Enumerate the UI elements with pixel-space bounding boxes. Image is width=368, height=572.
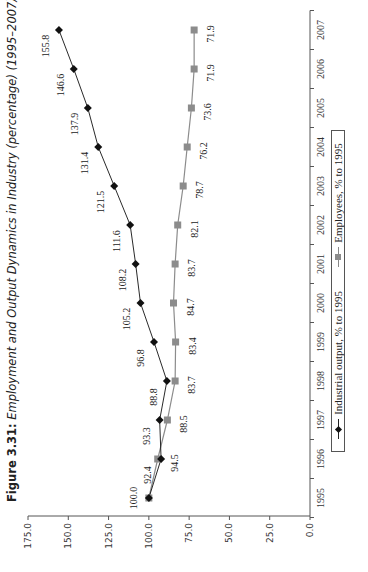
employees-data-label: 71.9 [205,64,216,82]
x-tick-label: 2006 [315,59,326,79]
y-tick-label: 100.0 [144,523,154,549]
output-point [94,143,102,151]
legend-label-employees: Employees, % to 1995 [332,143,344,243]
line-chart: 0.025.050.075.0100.0125.0150.0175.019951… [0,0,368,572]
x-tick-label: 2002 [315,215,326,235]
employees-data-label: 78.7 [194,181,205,199]
output-point [163,377,171,385]
output-point [55,26,63,34]
square-marker-icon [338,247,339,267]
x-tick-label: 1998 [315,371,326,391]
output-data-label: 93.3 [141,427,152,445]
y-tick-label: 75.0 [184,523,194,543]
output-data-label: 105.2 [121,308,132,331]
employees-data-label: 94.5 [169,454,180,472]
employees-point [170,300,177,307]
output-point [84,104,92,112]
x-tick-label: 2007 [315,20,326,40]
output-data-label: 155.8 [40,35,51,58]
legend-item-output: Industrial output, % to 1995 [332,291,344,439]
x-tick-label: 1999 [315,332,326,352]
employees-point [174,222,181,229]
start-data-label: 100.0 [128,487,139,510]
output-data-label: 146.6 [55,74,66,97]
employees-data-label: 73.6 [202,103,213,121]
rotated-figure: Figure 3.31: Employment and Output Dynam… [0,0,368,572]
output-data-label: 92.4 [142,466,153,484]
x-tick-label: 1995 [315,488,326,508]
y-tick-label: 150.0 [63,523,73,549]
employees-data-label: 83.4 [187,337,198,355]
output-point [110,182,118,190]
output-point [150,338,158,346]
output-point [132,260,140,268]
employees-point [191,66,198,73]
x-tick-label: 2001 [315,254,326,274]
x-tick-label: 2004 [315,137,326,157]
output-data-label: 137.9 [69,113,80,136]
employees-point [172,378,179,385]
chart-legend: Industrial output, % to 1995 Employees, … [331,130,345,452]
output-data-label: 111.6 [111,230,122,252]
output-data-label: 108.2 [117,269,128,292]
output-point [126,221,134,229]
employees-data-label: 71.9 [205,25,216,43]
y-tick-label: 25.0 [265,523,275,543]
y-tick-label: 0.0 [305,523,315,538]
employees-data-label: 83.7 [186,259,197,277]
employees-data-label: 82.1 [189,220,200,238]
employees-point [180,183,187,190]
diamond-marker-icon [338,419,339,439]
x-tick-label: 2005 [315,98,326,118]
legend-label-output: Industrial output, % to 1995 [332,291,344,415]
output-point [156,416,164,424]
output-data-label: 121.5 [95,191,106,214]
employees-data-label: 83.7 [186,376,197,394]
y-tick-label: 175.0 [23,523,33,549]
x-tick-label: 1996 [315,449,326,469]
output-data-label: 131.4 [79,152,90,175]
output-data-label: 96.8 [135,349,146,367]
employees-point [164,417,171,424]
employees-point [188,105,195,112]
employees-point [191,27,198,34]
employees-point [184,144,191,151]
employees-data-label: 88.5 [178,415,189,433]
employees-data-label: 76.2 [198,142,209,160]
output-point [136,299,144,307]
output-data-label: 88.8 [148,388,159,406]
x-tick-label: 1997 [315,410,326,430]
employees-point [172,261,179,268]
x-tick-label: 2003 [315,176,326,196]
legend-item-employees: Employees, % to 1995 [332,143,344,267]
y-tick-label: 50.0 [224,523,234,543]
x-tick-label: 2000 [315,293,326,313]
employees-point [172,339,179,346]
y-tick-label: 125.0 [104,523,114,549]
employees-data-label: 84.7 [185,298,196,316]
output-point [70,65,78,73]
